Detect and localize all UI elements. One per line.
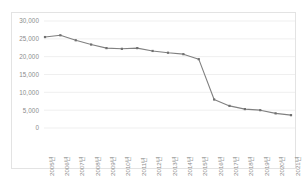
data-point-marker	[244, 108, 246, 110]
data-point-marker	[290, 114, 292, 116]
x-axis-tick-label: 2016년	[217, 156, 224, 176]
data-point-marker	[275, 112, 277, 114]
x-axis-tick-label: 2012년	[155, 156, 162, 176]
x-axis-tick-label: 2013년	[171, 156, 178, 176]
x-axis-tick-label: 2011년	[140, 157, 147, 176]
data-point-marker	[152, 50, 154, 52]
x-axis-tick-label: 2009년	[109, 156, 116, 176]
x-axis-tick-label: 2015년	[201, 156, 208, 176]
y-axis-tick-label: 30,000	[5, 17, 39, 24]
data-point-marker	[182, 53, 184, 55]
data-point-marker	[167, 52, 169, 54]
data-point-marker	[259, 109, 261, 111]
x-axis-tick-label: 2020년	[278, 156, 285, 176]
x-axis-tick-label: 2017년	[232, 156, 239, 176]
data-point-marker	[59, 34, 61, 36]
chart-canvas	[0, 0, 307, 182]
y-axis-tick-label: 20,000	[5, 53, 39, 60]
gridlines	[44, 21, 295, 128]
data-point-marker	[121, 48, 123, 50]
y-axis-tick-label: 0	[5, 124, 39, 131]
y-axis-tick-label: 5,000	[5, 107, 39, 114]
x-axis-tick-label: 2008년	[94, 156, 101, 176]
data-point-marker	[75, 39, 77, 41]
y-axis-tick-label: 10,000	[5, 89, 39, 96]
y-axis-tick-label: 15,000	[5, 71, 39, 78]
data-point-marker	[213, 98, 215, 100]
data-point-marker	[44, 36, 46, 38]
data-point-marker	[90, 43, 92, 45]
data-series-line	[45, 35, 291, 115]
x-axis-tick-label: 2005년	[48, 156, 55, 176]
data-point-marker	[228, 105, 230, 107]
x-axis-tick-label: 2019년	[263, 156, 270, 176]
data-point-marker	[105, 47, 107, 49]
x-axis-tick-label: 2018년	[247, 156, 254, 176]
x-axis-tick-label: 2006년	[63, 156, 70, 176]
x-axis-tick-label: 2014년	[186, 156, 193, 176]
data-point-markers	[44, 34, 292, 116]
y-axis-tick-label: 25,000	[5, 35, 39, 42]
x-axis-tick-label: 2010년	[124, 156, 131, 176]
x-axis-tick-label: 2021년	[294, 156, 301, 176]
data-point-marker	[136, 47, 138, 49]
data-point-marker	[198, 58, 200, 60]
x-axis-tick-label: 2007년	[78, 156, 85, 176]
